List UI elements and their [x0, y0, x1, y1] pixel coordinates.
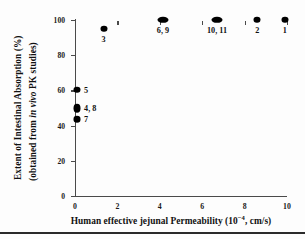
y-tick-0: 0 [71, 196, 75, 197]
data-point-label-3: 3 [102, 35, 106, 44]
data-point-3[interactable] [100, 26, 107, 32]
data-point-7[interactable] [74, 116, 81, 122]
data-point-label-7: 7 [84, 115, 88, 124]
y-axis-title-line1: Extent of Intestinal Absorption (%) [13, 18, 23, 198]
data-point-label-2: 2 [255, 26, 259, 35]
x-tick-8 [245, 21, 246, 25]
data-point-4-8[interactable] [74, 104, 81, 113]
data-point-label-6-9: 6, 9 [157, 26, 169, 35]
x-tick-6 [202, 21, 203, 25]
data-point-2[interactable] [254, 17, 261, 23]
x-tick-label-10: 10 [283, 202, 291, 211]
y-axis-title-line2-post: PK studies) [28, 43, 38, 92]
x-tick-label-2: 2 [115, 202, 119, 211]
plot-area: 020406080100 0246810 1234, 856, 9710, 11 [75, 20, 287, 196]
data-point-label-1: 1 [283, 26, 287, 35]
x-axis-line [75, 196, 287, 197]
data-point-label-10-11: 10, 11 [207, 26, 227, 35]
x-tick-0 [75, 21, 76, 25]
x-tick-label-8: 8 [243, 202, 247, 211]
data-point-5[interactable] [74, 86, 81, 92]
y-tick-label-20: 20 [57, 156, 65, 165]
y-axis-title-line2: (obtained from in vivo PK studies) [28, 22, 38, 202]
y-tick-label-40: 40 [57, 121, 65, 130]
x-tick-2 [117, 21, 118, 25]
data-point-10-11[interactable] [212, 17, 223, 23]
figure-scatter-permeability-vs-absorption: Extent of Intestinal Absorption (%) (obt… [0, 0, 305, 239]
x-tick-label-4: 4 [158, 202, 162, 211]
y-tick-label-0: 0 [61, 192, 65, 201]
y-tick-20: 20 [71, 161, 75, 162]
data-point-label-5: 5 [84, 85, 88, 94]
y-tick-40: 40 [71, 126, 75, 127]
y-axis-title-line2-pre: (obtained from [28, 118, 38, 181]
y-axis-title-line2-italic: in vivo [28, 92, 38, 118]
x-axis-title: Human effective jejunal Permeability (10… [40, 214, 302, 226]
x-tick-label-6: 6 [200, 202, 204, 211]
x-axis-title-exponent: −4 [238, 214, 245, 221]
y-tick-80: 80 [71, 55, 75, 56]
y-tick-label-80: 80 [57, 51, 65, 60]
x-tick-label-0: 0 [73, 202, 77, 211]
y-axis-title: Extent of Intestinal Absorption (%) (obt… [0, 0, 48, 210]
y-tick-label-100: 100 [54, 16, 65, 25]
data-point-label-4-8: 4, 8 [84, 104, 96, 113]
data-point-6-9[interactable] [157, 17, 168, 23]
bottom-divider [0, 232, 305, 234]
y-tick-label-60: 60 [57, 86, 65, 95]
